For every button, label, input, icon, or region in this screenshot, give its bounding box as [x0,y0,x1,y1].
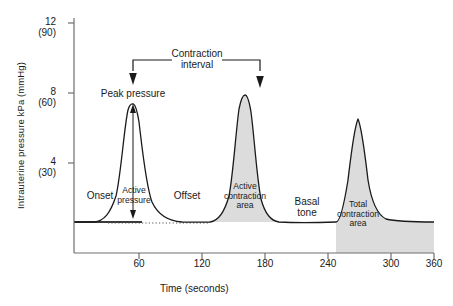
total-contraction-area-line3: area [349,218,366,228]
basal-tone-line1: Basal [294,196,319,207]
chart-plot-area [0,0,453,306]
contraction-interval-arrow-left [129,73,137,85]
active-contraction-area-line3: area [236,200,253,210]
annotation-contraction-interval: Contraction interval [157,48,237,70]
chart-figure: Intrauterine pressure kPa (mmHg) 12 (90)… [0,0,453,306]
total-contraction-area-line2: contraction [337,209,379,219]
active-contraction-area-line2: contraction [224,191,266,201]
shaded-region-total-contraction-area [336,119,434,253]
contraction-interval-line2: interval [181,59,213,70]
active-contraction-area-line1: Active [233,181,256,191]
annotation-offset: Offset [164,190,210,201]
total-contraction-area-line1: Total [349,199,367,209]
annotation-active-pressure: Active pressure [112,186,156,205]
annotation-total-contraction-area: Total contraction area [335,200,381,229]
contraction-interval-arrow-right [256,76,264,88]
active-pressure-line1: Active [122,185,145,195]
annotation-basal-tone: Basal tone [286,196,328,218]
annotation-peak-pressure: Peak pressure [78,88,188,99]
basal-tone-line2: tone [297,207,316,218]
contraction-interval-line1: Contraction [171,48,222,59]
annotation-active-contraction-area: Active contraction area [222,182,268,211]
active-pressure-line2: pressure [117,195,150,205]
